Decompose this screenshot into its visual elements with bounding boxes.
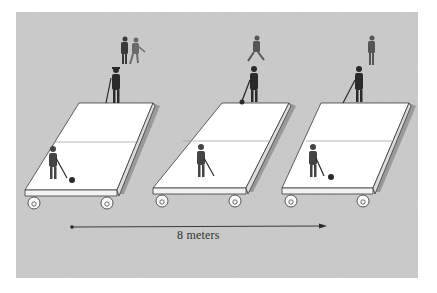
wheel-icon xyxy=(285,195,297,207)
wheel-icon xyxy=(156,195,168,207)
platform-front-edge xyxy=(25,190,117,196)
platform-front-edge xyxy=(282,188,373,194)
distance-label: 8 meters xyxy=(177,228,220,243)
diagram-scene xyxy=(0,0,437,293)
wheel-icon xyxy=(28,197,40,209)
wheel-icon xyxy=(101,197,113,209)
platform-front-edge xyxy=(153,188,246,194)
wheel-icon xyxy=(229,195,241,207)
wheel-icon xyxy=(357,195,369,207)
